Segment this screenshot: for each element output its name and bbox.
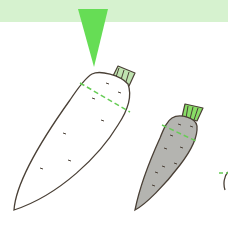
grey-daikon <box>135 104 203 210</box>
partial-daikon <box>219 172 228 190</box>
white-daikon <box>14 66 135 210</box>
down-arrow-icon <box>78 9 108 67</box>
daikon-illustration <box>0 0 228 227</box>
